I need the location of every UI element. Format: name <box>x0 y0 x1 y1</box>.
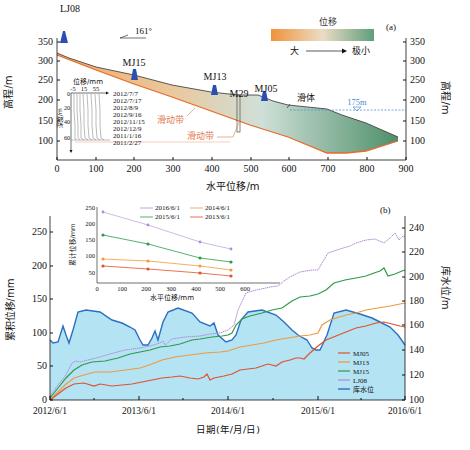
inset-series-2014 <box>103 259 231 270</box>
inset-series-2013-markers <box>101 264 232 277</box>
svg-text:100: 100 <box>85 252 95 259</box>
inset-series-2015-markers <box>101 233 232 263</box>
x-ticks-a: 0 100 200 300 400 500 600 700 800 900 <box>55 157 414 174</box>
svg-text:150: 150 <box>410 115 425 126</box>
legend-arrow-head-icon <box>342 49 347 54</box>
svg-text:200: 200 <box>38 94 53 105</box>
svg-text:200: 200 <box>127 163 142 174</box>
inset-b-yticks: 50 100 150 200 250 <box>85 204 95 276</box>
svg-text:600: 600 <box>240 285 250 292</box>
svg-text:MJ13: MJ13 <box>204 71 227 82</box>
svg-text:200: 200 <box>85 220 95 227</box>
svg-text:0: 0 <box>42 394 47 405</box>
svg-text:250: 250 <box>38 74 53 85</box>
svg-text:100: 100 <box>32 327 47 338</box>
svg-text:2014/6/1: 2014/6/1 <box>211 406 245 416</box>
slip-zone-arrow-2 <box>217 120 240 137</box>
inset-a-yticks: 0 20 40 60 <box>64 91 70 141</box>
svg-text:800: 800 <box>360 163 375 174</box>
marker-lj08: LJ08 <box>60 3 80 43</box>
slip-zone-arrow-1 <box>187 108 195 116</box>
svg-text:55: 55 <box>93 85 100 92</box>
svg-text:300: 300 <box>38 55 53 66</box>
y-axis-label-a-left: 高程/m <box>2 75 14 108</box>
svg-text:2013/6/1: 2013/6/1 <box>122 406 156 416</box>
svg-text:350: 350 <box>410 36 425 47</box>
svg-text:400: 400 <box>205 163 220 174</box>
svg-text:100: 100 <box>38 135 53 146</box>
svg-text:200: 200 <box>410 94 425 105</box>
water-level-area <box>50 308 405 400</box>
inset-b-xlabel: 水平位移/mm <box>150 293 194 302</box>
x-axis-label-a: 水平位移/m <box>206 180 259 192</box>
svg-text:库水位: 库水位 <box>353 385 374 394</box>
svg-text:120: 120 <box>409 369 424 380</box>
svg-text:100: 100 <box>409 394 424 405</box>
svg-text:200: 200 <box>141 285 151 292</box>
svg-text:250: 250 <box>32 226 47 237</box>
svg-text:0: 0 <box>67 91 70 97</box>
direction-label: 161° <box>135 26 153 36</box>
svg-text:350: 350 <box>38 36 53 47</box>
svg-text:20: 20 <box>64 105 70 111</box>
svg-text:2015/6/1: 2015/6/1 <box>155 213 180 221</box>
figure: 175m LJ08 MJ15 MJ13 M29 MJ05 滑体 滑动带 滑动带 <box>0 0 470 450</box>
svg-text:2014/6/1: 2014/6/1 <box>205 204 230 212</box>
svg-text:2016/6/1: 2016/6/1 <box>388 406 422 416</box>
inset-series-2015 <box>103 235 231 262</box>
svg-text:100: 100 <box>117 285 127 292</box>
svg-text:900: 900 <box>399 163 414 174</box>
inset-b: 0 100 200 300 400 500 600 水平位移/mm 50 100… <box>68 204 280 302</box>
panel-a: 175m LJ08 MJ15 MJ13 M29 MJ05 滑体 滑动带 滑动带 <box>2 3 452 192</box>
svg-text:MJ15: MJ15 <box>353 368 369 376</box>
inset-b-ylabel: 累计位移/mm <box>68 224 77 267</box>
svg-text:MJ13: MJ13 <box>353 359 369 367</box>
svg-text:160: 160 <box>409 319 424 330</box>
svg-text:15: 15 <box>81 85 88 92</box>
svg-text:150: 150 <box>85 236 95 243</box>
svg-text:MJ05: MJ05 <box>255 83 278 94</box>
inset-b-xticks: 0 100 200 300 400 500 600 <box>95 285 250 292</box>
inset-a-curves <box>71 94 110 140</box>
monitor-icon <box>131 69 138 80</box>
svg-text:500: 500 <box>215 285 225 292</box>
inset-a-date-labels: 2012/7/7 2012/7/17 2012/8/9 2012/9/16 20… <box>113 90 145 147</box>
svg-text:150: 150 <box>38 115 53 126</box>
svg-text:100: 100 <box>410 135 425 146</box>
svg-text:400: 400 <box>191 285 201 292</box>
monitor-icon <box>60 31 68 43</box>
svg-text:300: 300 <box>166 163 181 174</box>
svg-text:500: 500 <box>244 163 259 174</box>
svg-text:0: 0 <box>95 285 98 292</box>
water-level-label: 175m <box>347 97 367 107</box>
svg-text:700: 700 <box>321 163 336 174</box>
y-axis-label-a-right: 高程/m <box>440 81 452 114</box>
monitor-icon <box>211 85 218 95</box>
svg-text:2011/2/27: 2011/2/27 <box>113 139 142 147</box>
svg-text:MJ15: MJ15 <box>123 57 146 68</box>
svg-text:2013/6/1: 2013/6/1 <box>205 213 230 221</box>
inset-a-xticks: -5 15 55 <box>70 85 99 92</box>
svg-text:MJ05: MJ05 <box>353 350 369 358</box>
svg-text:220: 220 <box>409 246 424 257</box>
svg-text:2016/6/1: 2016/6/1 <box>155 204 180 212</box>
legend-left-label: 大 <box>290 45 299 56</box>
svg-text:300: 300 <box>166 285 176 292</box>
svg-text:50: 50 <box>37 360 47 371</box>
svg-text:300: 300 <box>410 55 425 66</box>
svg-text:180: 180 <box>409 295 424 306</box>
inset-a-y-arrow-icon <box>70 150 73 153</box>
svg-text:600: 600 <box>282 163 297 174</box>
svg-text:-5: -5 <box>70 85 75 92</box>
slip-zone-label-1: 滑动带 <box>157 115 184 125</box>
direction-arrow-head <box>120 35 128 38</box>
legend-title: 位移 <box>319 16 337 27</box>
svg-text:LJ08: LJ08 <box>60 3 80 14</box>
svg-text:2015/6/1: 2015/6/1 <box>301 406 335 416</box>
panel-a-label: (a) <box>386 22 396 32</box>
slip-zone-label-2: 滑动带 <box>187 131 214 141</box>
svg-text:60: 60 <box>64 135 70 141</box>
inset-b-legend: 2016/6/1 2014/6/1 2015/6/1 2013/6/1 <box>140 204 230 221</box>
x-axis-label-b: 日期(年/月/日) <box>196 424 260 435</box>
panel-b: MJ05 MJ13 MJ15 LJ08 库水位 (b) 2012/6/1 201… <box>4 204 452 435</box>
